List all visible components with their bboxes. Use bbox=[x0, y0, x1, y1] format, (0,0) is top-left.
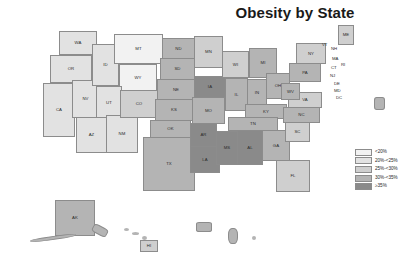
state-label-md: MD bbox=[334, 89, 341, 93]
legend-row: 30%-<35% bbox=[355, 174, 413, 183]
state-label-mt: MT bbox=[115, 47, 162, 51]
legend-swatch bbox=[355, 166, 372, 173]
state-ok[interactable]: OK bbox=[150, 120, 191, 138]
state-nm[interactable]: NM bbox=[106, 115, 138, 153]
state-ne[interactable]: NE bbox=[157, 79, 195, 100]
state-pa[interactable]: PA bbox=[289, 63, 321, 82]
state-label-fl: FL bbox=[277, 174, 309, 178]
legend-swatch bbox=[355, 183, 372, 190]
state-mo[interactable]: MO bbox=[192, 97, 225, 124]
legend-row: ≥35% bbox=[355, 182, 413, 191]
state-label-pa: PA bbox=[290, 70, 320, 74]
state-label-sc: SC bbox=[286, 130, 309, 134]
state-ca[interactable]: CA bbox=[43, 83, 75, 137]
state-label-ny: NY bbox=[297, 51, 325, 55]
legend-label: 20%-<25% bbox=[375, 159, 398, 164]
state-label-ky: KY bbox=[246, 109, 286, 113]
state-label-nh: NH bbox=[331, 47, 337, 51]
state-label-hi: HI bbox=[141, 244, 157, 248]
state-ak[interactable]: AK bbox=[55, 200, 95, 236]
legend: <20%20%-<25%25%-<30%30%-<35%≥35% bbox=[355, 148, 413, 191]
state-label-ut: UT bbox=[97, 101, 121, 105]
state-label-sd: SD bbox=[161, 67, 194, 71]
state-label-in: IN bbox=[248, 90, 266, 94]
state-az[interactable]: AZ bbox=[76, 117, 107, 153]
puerto-rico-inset bbox=[196, 222, 212, 232]
state-wi[interactable]: WI bbox=[222, 51, 249, 78]
guam-inset bbox=[228, 228, 238, 244]
state-label-ak: AK bbox=[56, 216, 94, 220]
legend-swatch bbox=[355, 157, 372, 164]
state-or[interactable]: OR bbox=[50, 55, 92, 83]
state-label-nc: NC bbox=[284, 113, 319, 117]
legend-label: ≥35% bbox=[375, 184, 387, 189]
legend-swatch bbox=[355, 149, 372, 156]
state-ar[interactable]: AR bbox=[190, 123, 217, 147]
virgin-islands-inset bbox=[252, 236, 256, 240]
hawaii-island-3 bbox=[142, 236, 147, 240]
state-label-wa: WA bbox=[60, 41, 96, 45]
state-sc[interactable]: SC bbox=[285, 122, 310, 142]
legend-row: <20% bbox=[355, 148, 413, 157]
state-mt[interactable]: MT bbox=[114, 34, 163, 64]
hawaii-island-2 bbox=[132, 232, 139, 235]
state-label-mi: MI bbox=[250, 61, 276, 65]
legend-swatch bbox=[355, 175, 372, 182]
state-tn[interactable]: TN bbox=[228, 117, 278, 131]
state-label-ga: GA bbox=[263, 143, 289, 147]
page-title: Obesity by State bbox=[215, 4, 375, 21]
state-label-nv: NV bbox=[73, 97, 98, 101]
state-label-mo: MO bbox=[193, 108, 224, 112]
state-label-wv: WV bbox=[282, 89, 299, 93]
state-label-al: AL bbox=[238, 145, 262, 149]
state-label-ca: CA bbox=[44, 108, 74, 112]
legend-label: 30%-<35% bbox=[375, 176, 398, 181]
state-wv[interactable]: WV bbox=[281, 83, 300, 100]
state-tx[interactable]: TX bbox=[143, 137, 195, 191]
state-label-dc: DC bbox=[336, 96, 342, 100]
state-fl[interactable]: FL bbox=[276, 160, 310, 192]
state-in[interactable]: IN bbox=[247, 79, 267, 106]
obesity-choropleth-figure: Obesity by State WAORCANVIDMTWYUTAZNMCON… bbox=[0, 0, 417, 269]
state-label-tx: TX bbox=[144, 162, 194, 166]
state-label-ct: CT bbox=[331, 66, 337, 70]
state-nc[interactable]: NC bbox=[283, 107, 320, 123]
state-label-wy: WY bbox=[120, 75, 156, 79]
state-sd[interactable]: SD bbox=[160, 58, 195, 80]
state-label-nm: NM bbox=[107, 132, 137, 136]
legend-row: 25%-<30% bbox=[355, 165, 413, 174]
state-label-ia: IA bbox=[195, 85, 225, 89]
state-label-ma: MA bbox=[332, 57, 338, 61]
state-label-il: IL bbox=[226, 92, 247, 96]
state-label-de: DE bbox=[334, 82, 340, 86]
legend-row: 20%-<25% bbox=[355, 157, 413, 166]
hawaii-island-1 bbox=[124, 228, 129, 231]
state-hi[interactable]: HI bbox=[140, 240, 158, 252]
state-label-me: ME bbox=[339, 33, 353, 37]
state-me[interactable]: ME bbox=[338, 25, 354, 45]
state-label-la: LA bbox=[191, 157, 219, 161]
state-label-nd: ND bbox=[163, 46, 194, 50]
state-ks[interactable]: KS bbox=[155, 99, 193, 121]
atlantic-territory-inset bbox=[374, 97, 385, 110]
state-label-ms: MS bbox=[217, 146, 237, 150]
state-mn[interactable]: MN bbox=[194, 36, 223, 68]
state-label-ks: KS bbox=[156, 108, 192, 112]
state-label-vt: VT bbox=[322, 43, 328, 47]
state-ia[interactable]: IA bbox=[194, 76, 226, 98]
legend-label: <20% bbox=[375, 150, 387, 155]
state-nd[interactable]: ND bbox=[162, 38, 195, 59]
state-label-ar: AR bbox=[191, 133, 216, 137]
state-al[interactable]: AL bbox=[237, 130, 263, 165]
state-wy[interactable]: WY bbox=[119, 64, 157, 91]
state-label-ri: RI bbox=[341, 63, 345, 67]
state-ms[interactable]: MS bbox=[216, 131, 238, 165]
state-co[interactable]: CO bbox=[120, 90, 158, 118]
state-label-mn: MN bbox=[195, 50, 222, 54]
state-label-wi: WI bbox=[223, 62, 248, 66]
state-label-nj: NJ bbox=[330, 74, 335, 78]
state-label-co: CO bbox=[121, 102, 157, 106]
state-label-tn: TN bbox=[229, 122, 277, 126]
state-label-ne: NE bbox=[158, 87, 194, 91]
state-label-ok: OK bbox=[151, 127, 190, 131]
